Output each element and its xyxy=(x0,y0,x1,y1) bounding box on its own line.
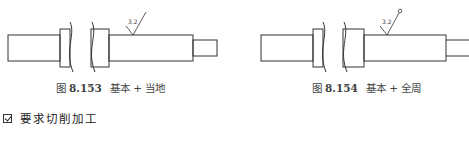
requirement-label: 要求切削加工 xyxy=(20,110,98,126)
figure-caption: 图8.154基本 + 全周 xyxy=(312,80,421,95)
shaft-drawing-basic-all-around: 3.2 xyxy=(240,0,469,80)
figure-number: 8.154 xyxy=(325,82,358,94)
figure-title: 基本 + 当地 xyxy=(110,82,165,94)
figure-8-153: 3.2 xyxy=(0,0,240,80)
shaft-drawing-basic-local: 3.2 xyxy=(0,0,240,80)
requirement-item: 要求切削加工 xyxy=(3,110,98,126)
figure-8-154: 3.2 xyxy=(240,0,469,80)
figure-title: 基本 + 全周 xyxy=(366,82,421,94)
roughness-value: 3.2 xyxy=(128,18,138,25)
figure-caption: 图8.153基本 + 当地 xyxy=(56,80,165,95)
figure-number: 8.153 xyxy=(69,82,102,94)
checkbox-checked-icon xyxy=(3,114,12,123)
roughness-value: 3.2 xyxy=(382,18,392,25)
